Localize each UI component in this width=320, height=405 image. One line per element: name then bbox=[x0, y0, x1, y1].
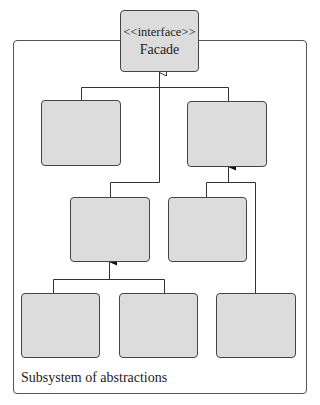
facade-interface-box[interactable]: <<interface>> Facade bbox=[120, 10, 199, 72]
class-box-c[interactable] bbox=[70, 197, 150, 262]
class-box-f[interactable] bbox=[119, 293, 198, 358]
class-box-b[interactable] bbox=[187, 101, 267, 167]
class-box-a[interactable] bbox=[41, 100, 121, 166]
class-box-g[interactable] bbox=[216, 293, 296, 358]
class-box-d[interactable] bbox=[168, 197, 247, 262]
subsystem-label: Subsystem of abstractions bbox=[21, 370, 167, 386]
class-box-e[interactable] bbox=[21, 293, 100, 358]
facade-stereotype: <<interface>> bbox=[124, 24, 196, 41]
facade-name: Facade bbox=[140, 41, 180, 58]
